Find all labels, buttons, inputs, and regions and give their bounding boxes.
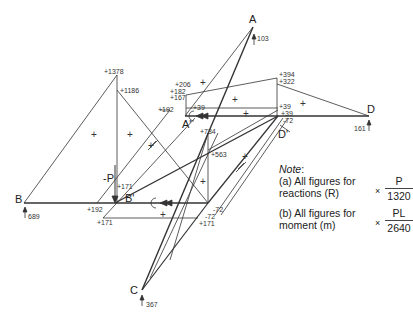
- fraction-P-1320: P 1320: [385, 175, 413, 202]
- note-block: Note: (a) All figures for reactions (R) …: [279, 163, 304, 235]
- fraction-PL-2640: PL 2640: [385, 207, 413, 234]
- times-icon: ×: [375, 217, 380, 229]
- sign-plus: +: [200, 78, 206, 88]
- sign-plus: +: [242, 152, 248, 162]
- times-icon: ×: [375, 185, 380, 197]
- note-a: (a) All figures for reactions (R) × P 13…: [279, 175, 304, 203]
- moment-39-Aprime: +39: [193, 104, 205, 112]
- sign-plus: +: [91, 130, 97, 140]
- node-Dprime-label: D': [278, 128, 288, 140]
- moment-neg72-D: -72: [283, 117, 293, 125]
- moment-192-bottom: +192: [87, 206, 103, 214]
- sign-plus: +: [127, 130, 133, 140]
- reaction-C: 367: [146, 301, 158, 309]
- moment-734: +734: [200, 128, 216, 136]
- reaction-B: 689: [28, 213, 40, 221]
- sign-plus: +: [300, 99, 306, 109]
- note-title: Note: [279, 163, 301, 175]
- moment-322: +322: [279, 78, 295, 86]
- sign-plus: +: [200, 177, 206, 187]
- moment-167: +167: [170, 94, 186, 102]
- moment-192-top: +192: [158, 106, 174, 114]
- beam-A-Aprime: [185, 27, 253, 116]
- sign-plus: +: [148, 141, 154, 151]
- reaction-D: 161: [354, 125, 366, 133]
- moment-563: +563: [211, 151, 227, 159]
- note-b: (b) All figures for moment (m) × PL 2640: [279, 207, 304, 235]
- node-D-label: D: [367, 103, 375, 115]
- moment-171-upper: +171: [117, 183, 133, 191]
- sign-plus: +: [232, 95, 238, 105]
- moment-1378: +1378: [104, 68, 124, 76]
- sign-plus: +: [243, 109, 249, 119]
- moment-171-bottom-right: +171: [199, 220, 215, 228]
- node-A-label: A: [249, 13, 256, 25]
- node-B-label: B: [15, 193, 22, 205]
- moment-171-bottom-left: +171: [97, 219, 113, 227]
- load-label: -P: [103, 172, 114, 184]
- sign-plus: +: [160, 210, 166, 220]
- node-Aprime-label: A': [182, 118, 191, 130]
- node-C-label: C: [130, 284, 138, 296]
- moment-1186: +1186: [120, 87, 139, 95]
- reaction-A: 103: [257, 35, 269, 43]
- node-Bprime-label: B': [125, 192, 134, 204]
